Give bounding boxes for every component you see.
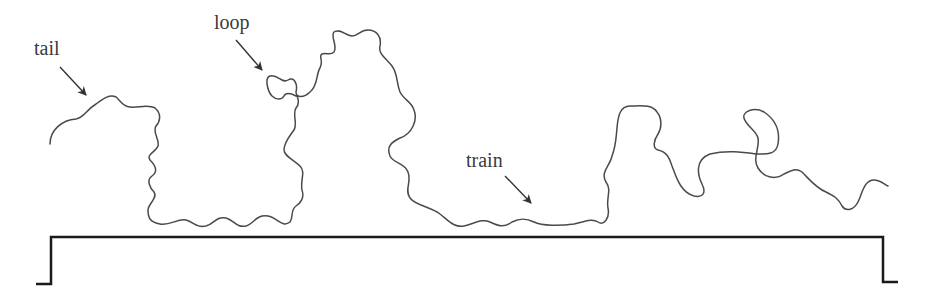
adsorbing-surface <box>36 237 898 284</box>
polymer-adsorption-diagram <box>0 0 930 300</box>
train-label: train <box>466 150 503 170</box>
tail-arrow-icon <box>60 67 86 95</box>
train-arrow-icon <box>505 176 531 203</box>
loop-label: loop <box>214 12 250 32</box>
tail-label: tail <box>34 38 60 58</box>
polymer-chain <box>50 30 888 226</box>
loop-arrow-icon <box>236 40 262 70</box>
